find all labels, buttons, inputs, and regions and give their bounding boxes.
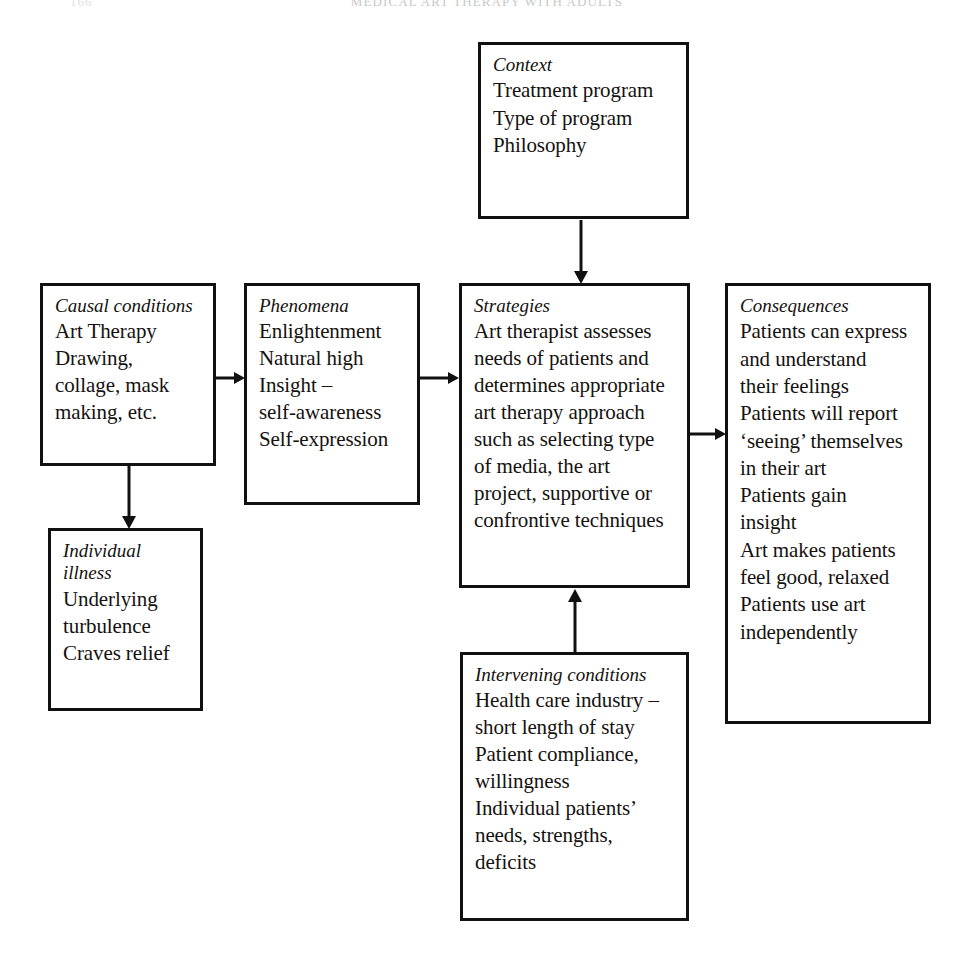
box-intervening-conditions-heading: Intervening conditions: [475, 664, 676, 686]
box-intervening-conditions-lines: Health care industry – short length of s…: [475, 687, 676, 876]
arrow-up-icon-intervening-to-strategies: [560, 588, 590, 654]
arrow-down-icon-causal-to-illness: [114, 464, 144, 530]
scanned-page: 166 MEDICAL ART THERAPY WITH ADULTS Cont…: [0, 0, 974, 966]
box-context-lines: Treatment program Type of program Philos…: [493, 77, 676, 159]
box-phenomena-heading: Phenomena: [259, 295, 407, 317]
box-consequences-heading: Consequences: [740, 295, 918, 317]
box-individual-illness: Individual illness Underlying turbulence…: [48, 528, 203, 711]
running-head: MEDICAL ART THERAPY WITH ADULTS: [0, 0, 974, 10]
box-phenomena-lines: Enlightenment Natural high Insight – sel…: [259, 318, 407, 453]
box-individual-illness-lines: Underlying turbulence Craves relief: [63, 586, 190, 667]
box-intervening-conditions: Intervening conditions Health care indus…: [460, 652, 689, 921]
box-strategies-lines: Art therapist assesses needs of patients…: [474, 318, 677, 534]
box-consequences: Consequences Patients can express and un…: [725, 283, 931, 724]
box-strategies-heading: Strategies: [474, 295, 677, 317]
arrow-right-icon-causal-to-phenomena: [214, 363, 246, 393]
box-consequences-lines: Patients can express and understand thei…: [740, 318, 918, 646]
box-strategies: Strategies Art therapist assesses needs …: [459, 283, 690, 588]
arrow-right-icon-strategies-to-consequences: [688, 419, 727, 449]
box-causal-conditions-heading: Causal conditions: [55, 295, 203, 317]
box-phenomena: Phenomena Enlightenment Natural high Ins…: [244, 283, 420, 505]
arrow-down-icon-context-to-strategies: [566, 219, 596, 285]
box-causal-conditions: Causal conditions Art Therapy Drawing, c…: [40, 283, 216, 466]
box-causal-conditions-lines: Art Therapy Drawing, collage, mask makin…: [55, 318, 203, 426]
box-context-heading: Context: [493, 54, 676, 76]
box-context: Context Treatment program Type of progra…: [478, 42, 689, 219]
box-individual-illness-heading: Individual illness: [63, 540, 190, 585]
arrow-right-icon-phenomena-to-strategies: [418, 363, 460, 393]
